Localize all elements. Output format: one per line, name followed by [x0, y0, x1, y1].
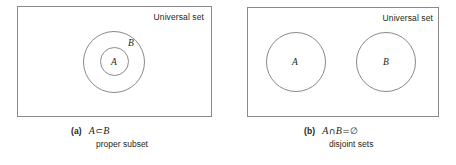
caption-a-operand-right: B — [103, 125, 110, 136]
universal-set-label-a: Universal set — [154, 12, 204, 22]
caption-b-line1: (b)A∩B=∅ — [304, 125, 373, 137]
set-label-a-left: A — [292, 57, 298, 67]
caption-a: (a)A⊂B proper subset — [71, 125, 148, 150]
caption-a-line1: (a)A⊂B — [71, 125, 148, 137]
caption-b-description: disjoint sets — [329, 139, 373, 150]
caption-a-tag: (a) — [71, 126, 82, 136]
caption-b-expression: A∩B=∅ — [322, 125, 358, 136]
caption-b: (b)A∩B=∅ disjoint sets — [304, 125, 373, 150]
equals-operator-icon: = — [342, 126, 350, 136]
caption-a-description: proper subset — [96, 139, 148, 150]
caption-b-tag: (b) — [304, 126, 315, 136]
panel-proper-subset: Universal set B A (a)A⊂B proper subset — [0, 0, 228, 165]
subset-operator-icon: ⊂ — [95, 126, 103, 136]
empty-set-icon: ∅ — [350, 126, 358, 136]
set-label-b-right: B — [383, 57, 389, 67]
set-label-a-inner: A — [111, 57, 117, 67]
caption-a-expression: A⊂B — [89, 125, 110, 136]
universal-set-label-b: Universal set — [383, 13, 433, 23]
panel-disjoint-sets: Universal set A B (b)A∩B=∅ disjoint sets — [228, 0, 456, 165]
set-label-b-outer: B — [128, 38, 134, 48]
intersection-operator-icon: ∩ — [329, 126, 336, 136]
venn-diagram-figure: Universal set B A (a)A⊂B proper subset U… — [0, 0, 456, 165]
